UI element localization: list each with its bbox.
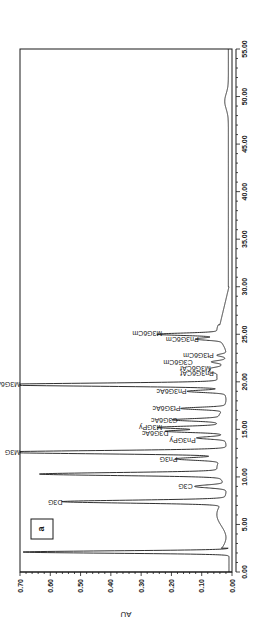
peak-label: D3G [48, 499, 62, 506]
time-tick-label: 25.00 [241, 325, 248, 343]
peak-label: Pn3G6Ac [156, 388, 186, 395]
time-axis: 0.005.0010.0015.0020.0025.0030.0035.0040… [236, 40, 248, 579]
time-tick-label: 0.00 [241, 565, 248, 579]
time-tick-label: 35.00 [241, 230, 248, 248]
au-axis-title: AU [120, 610, 131, 619]
peak-label: M3G [5, 449, 20, 456]
time-tick-label: 40.00 [241, 183, 248, 201]
time-tick-label: 55.00 [241, 40, 248, 58]
peak-labels: D3GC3GPn3GM3GPn3GPyD3G6AcM3GPyC3G6AcPt3G… [0, 330, 214, 505]
peak-label: M3G6Ac [0, 381, 20, 388]
peak-label: C3G6Ac [151, 417, 178, 424]
time-tick-label: 15.00 [241, 421, 248, 439]
peak-label: Pn3GPy [169, 436, 196, 444]
time-tick-label: 10.00 [241, 468, 248, 486]
au-tick-label: 0.30 [138, 579, 145, 593]
panel-label-box: a [31, 519, 53, 539]
chromatogram-trace [20, 49, 229, 572]
chromatogram-svg: 0.005.0010.0015.0020.0025.0030.0035.0040… [0, 0, 261, 637]
time-tick-label: 5.00 [241, 518, 248, 532]
au-tick-label: 0.00 [229, 579, 236, 593]
time-tick-label: 45.00 [241, 135, 248, 153]
au-axis: 0.000.100.200.300.400.500.600.70 [17, 572, 236, 593]
au-tick-label: 0.10 [198, 579, 205, 593]
time-tick-label: 30.00 [241, 278, 248, 296]
au-tick-label: 0.60 [47, 579, 54, 593]
au-tick-label: 0.20 [168, 579, 175, 593]
peak-label: Pn3G [160, 456, 178, 463]
chromatogram-chart: 0.005.0010.0015.0020.0025.0030.0035.0040… [0, 0, 261, 637]
peak-label: Pt3G6Ac [152, 405, 181, 412]
peak-label: C3G [178, 483, 192, 490]
peak-label: M3G6Cm [132, 330, 162, 337]
time-tick-label: 50.00 [241, 88, 248, 106]
time-tick-label: 20.00 [241, 373, 248, 391]
peak-label: Pt3G6Cm [183, 352, 214, 359]
au-tick-label: 0.70 [17, 579, 24, 593]
au-tick-label: 0.50 [77, 579, 84, 593]
panel-label: a [36, 526, 46, 532]
plot-frame [20, 49, 232, 572]
peak-label: Pn3G6Cm [166, 336, 199, 343]
au-tick-label: 0.40 [107, 579, 114, 593]
